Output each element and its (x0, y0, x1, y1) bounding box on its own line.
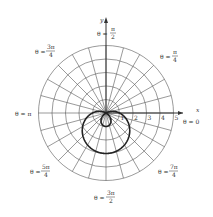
x-axis-label: x (196, 106, 200, 113)
svg-text:θ =: θ = (35, 48, 46, 55)
svg-text:θ =: θ = (158, 168, 169, 175)
angle-label-0: θ = 0 (183, 118, 199, 125)
angle-label-3pi-over-4: θ = 3π 4 (35, 43, 55, 58)
svg-text:3π: 3π (107, 189, 115, 196)
svg-text:4: 4 (172, 171, 176, 178)
svg-text:θ =: θ = (160, 53, 171, 60)
y-axis-arrow-icon (104, 17, 108, 23)
svg-text:θ =: θ = (94, 194, 105, 201)
svg-text:2: 2 (111, 33, 115, 40)
svg-text:2: 2 (109, 197, 113, 204)
x-axis-arrow-icon (178, 111, 183, 115)
grid-ray (48, 113, 106, 147)
radial-tick-label: 1 (121, 114, 125, 121)
grid-ray (106, 48, 123, 113)
svg-text:4: 4 (173, 56, 177, 63)
grid-ray (48, 79, 106, 113)
grid-ray (106, 96, 171, 113)
svg-text:4: 4 (49, 51, 53, 58)
svg-text:3π: 3π (47, 43, 55, 50)
radial-tick-label: 2 (134, 114, 138, 121)
angle-label-5pi-over-4: θ = 5π 4 (30, 163, 50, 178)
svg-text:7π: 7π (170, 163, 178, 170)
radial-tick-label: 5 (175, 114, 179, 121)
angle-label-7pi-over-4: θ = 7π 4 (158, 163, 178, 178)
grid-ray (106, 79, 164, 113)
radial-tick-label: 4 (161, 114, 165, 121)
svg-text:θ =: θ = (30, 168, 41, 175)
angle-label-pi: θ = π (15, 110, 31, 117)
grid-ray (106, 65, 154, 113)
radial-ticks: 12345 (121, 114, 179, 121)
grid-ray (58, 113, 106, 161)
svg-text:4: 4 (44, 171, 48, 178)
svg-text:π: π (111, 25, 115, 32)
grid-ray (41, 96, 106, 113)
grid-ray (106, 55, 140, 113)
svg-text:π: π (173, 48, 177, 55)
axes (104, 17, 183, 115)
radial-tick-label: 3 (148, 114, 152, 121)
grid-ray (58, 65, 106, 113)
svg-text:θ =: θ = (97, 30, 108, 37)
grid-ray (89, 48, 106, 113)
grid-ray (106, 113, 123, 178)
angle-label-pi-over-4: θ = π 4 (160, 48, 178, 63)
svg-text:5π: 5π (42, 163, 50, 170)
polar-plot: x y 12345 θ = 0 θ = π θ = π 2 θ = π 4 θ … (0, 0, 213, 217)
grid-ray (72, 55, 106, 113)
grid-ray (41, 113, 106, 130)
y-axis-label: y (99, 16, 104, 24)
angle-label-3pi-over-2: θ = 3π 2 (94, 189, 115, 204)
grid-ray (89, 113, 106, 178)
